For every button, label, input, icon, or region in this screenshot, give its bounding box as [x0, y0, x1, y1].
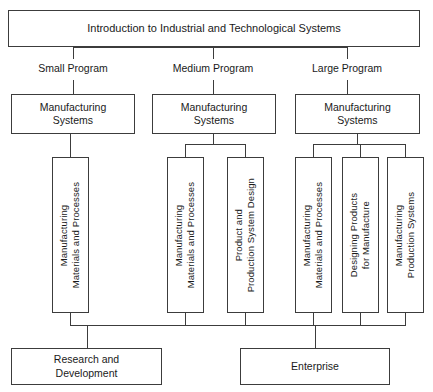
branch-label-medium-program: Medium Program [153, 62, 273, 74]
course-label: Manufacturing Materials and Processes [58, 182, 83, 288]
connector-course-stub-large-1 [313, 313, 314, 325]
connector-shared-bus [70, 325, 406, 326]
connector-small-label-to-systems [73, 80, 74, 94]
connector-medium-systems-bus [185, 144, 245, 145]
node-outcome-enterprise: Enterprise [240, 348, 390, 385]
branch-label-small-program: Small Program [13, 62, 133, 74]
connector-course-stub-medium-2 [245, 313, 246, 325]
connector-small-systems-to-course [70, 134, 71, 157]
connector-root-drop-small [73, 47, 74, 59]
connector-medium-drop-course-2 [245, 144, 246, 157]
course-label: Manufacturing Materials and Processes [173, 182, 198, 288]
connector-bus-to-research-development [87, 325, 88, 348]
diagram-canvas: Introduction to Industrial and Technolog… [0, 0, 433, 392]
connector-root-bus-horizontal [73, 47, 348, 48]
connector-course-stub-medium-1 [185, 313, 186, 325]
connector-large-systems-bus [313, 144, 405, 145]
node-root-introduction: Introduction to Industrial and Technolog… [8, 10, 420, 47]
branch-label-large-program: Large Program [287, 62, 407, 74]
course-label: Manufacturing Materials and Processes [301, 182, 326, 288]
connector-large-label-to-systems [347, 80, 348, 94]
connector-large-drop-course-3 [405, 144, 406, 157]
course-label: Designing Products for Manufacture [348, 193, 373, 277]
course-label: Manufacturing Production Systems [393, 192, 418, 278]
connector-root-drop-large [347, 47, 348, 59]
node-small-manufacturing-systems: Manufacturing Systems [11, 94, 135, 134]
connector-large-drop-course-1 [313, 144, 314, 157]
node-course-large-designing-products-for-manufacture: Designing Products for Manufacture [342, 157, 379, 313]
node-course-small-materials-processes: Manufacturing Materials and Processes [52, 157, 89, 313]
connector-bus-to-enterprise [315, 325, 316, 348]
node-large-manufacturing-systems: Manufacturing Systems [295, 94, 420, 134]
node-outcome-research-and-development: Research and Development [11, 348, 162, 385]
connector-medium-systems-stem [213, 134, 214, 144]
node-course-large-materials-processes: Manufacturing Materials and Processes [295, 157, 332, 313]
connector-course-stub-large-3 [405, 313, 406, 325]
node-course-medium-product-production-system-design: Product and Production System Design [227, 157, 264, 313]
connector-medium-label-to-systems [213, 80, 214, 94]
node-course-medium-materials-processes: Manufacturing Materials and Processes [167, 157, 204, 313]
connector-course-stub-large-2 [360, 313, 361, 325]
course-label: Product and Production System Design [233, 178, 258, 292]
connector-root-drop-medium [213, 47, 214, 59]
connector-medium-drop-course-1 [185, 144, 186, 157]
connector-large-drop-course-2 [360, 144, 361, 157]
connector-course-stub-small-1 [70, 313, 71, 325]
node-medium-manufacturing-systems: Manufacturing Systems [152, 94, 276, 134]
connector-large-systems-stem [357, 134, 358, 144]
node-course-large-production-systems: Manufacturing Production Systems [387, 157, 424, 313]
